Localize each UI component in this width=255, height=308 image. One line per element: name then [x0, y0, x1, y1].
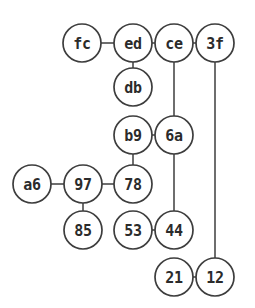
graph-node-label-db: db [124, 79, 142, 97]
node-layer: fcedce3fdbb96aa697788553442112 [13, 24, 234, 296]
graph-canvas: fcedce3fdbb96aa697788553442112 [0, 0, 255, 308]
graph-node-label-6a: 6a [165, 127, 183, 145]
graph-node-6a[interactable]: 6a [155, 116, 193, 154]
graph-node-db[interactable]: db [114, 68, 152, 106]
graph-node-label-78: 78 [124, 176, 142, 194]
graph-node-21[interactable]: 21 [155, 258, 193, 296]
graph-node-fc[interactable]: fc [63, 24, 101, 62]
graph-node-label-b9: b9 [124, 127, 142, 145]
graph-node-label-3f: 3f [206, 35, 223, 53]
graph-node-3f[interactable]: 3f [196, 24, 234, 62]
graph-node-53[interactable]: 53 [114, 211, 152, 249]
graph-node-b9[interactable]: b9 [114, 116, 152, 154]
graph-node-ed[interactable]: ed [114, 24, 152, 62]
graph-node-label-85: 85 [74, 222, 92, 240]
graph-node-85[interactable]: 85 [64, 211, 102, 249]
graph-diagram: fcedce3fdbb96aa697788553442112 [0, 0, 255, 308]
graph-node-44[interactable]: 44 [155, 211, 193, 249]
graph-node-97[interactable]: 97 [64, 165, 102, 203]
graph-node-label-a6: a6 [23, 176, 41, 194]
graph-node-label-97: 97 [74, 176, 91, 194]
graph-node-label-ce: ce [165, 35, 183, 53]
graph-node-a6[interactable]: a6 [13, 165, 51, 203]
graph-node-label-fc: fc [73, 35, 90, 53]
graph-node-ce[interactable]: ce [155, 24, 193, 62]
graph-node-label-44: 44 [165, 222, 183, 240]
graph-node-label-21: 21 [165, 269, 183, 287]
graph-node-label-ed: ed [124, 35, 141, 53]
graph-node-12[interactable]: 12 [196, 258, 234, 296]
graph-node-78[interactable]: 78 [114, 165, 152, 203]
graph-node-label-12: 12 [206, 269, 223, 287]
graph-node-label-53: 53 [124, 222, 142, 240]
